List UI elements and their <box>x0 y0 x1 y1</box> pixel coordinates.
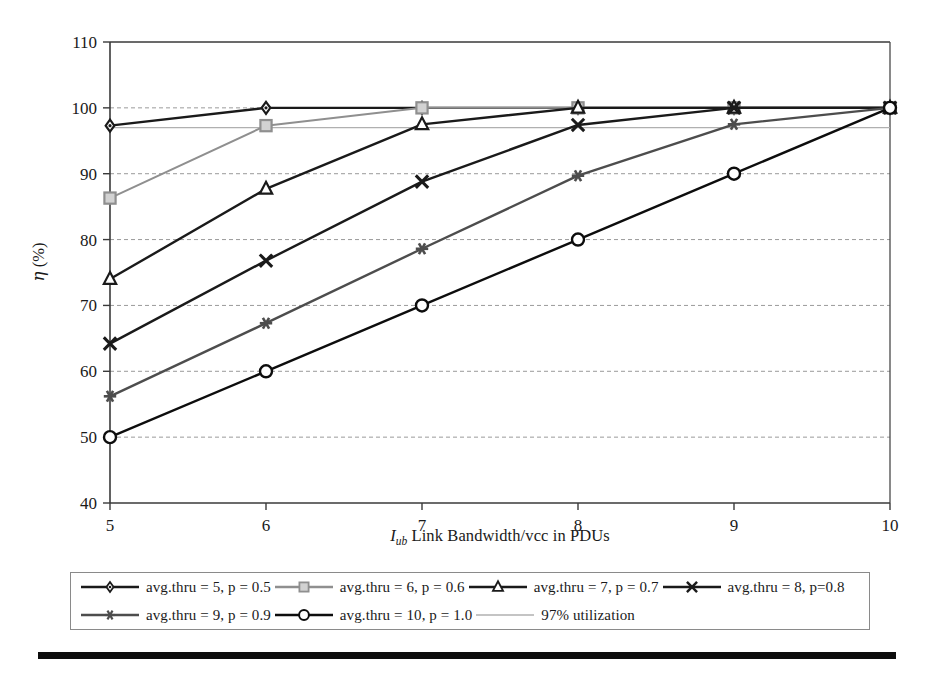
marker-diamond-center <box>108 124 111 127</box>
series-line <box>110 108 890 437</box>
marker-circle <box>416 299 428 311</box>
legend-label: avg.thru = 6, p = 0.6 <box>335 579 467 596</box>
legend-label: avg.thru = 9, p = 0.9 <box>141 607 273 624</box>
marker-circle <box>260 365 272 377</box>
series-3 <box>104 101 896 284</box>
x-axis-title: Iub Link Bandwidth/vcc in PDUs <box>110 526 890 547</box>
chart-plot: 4050607080901001105678910 <box>0 0 934 560</box>
legend-swatch-asterisk-icon <box>79 606 141 624</box>
marker-circle <box>728 168 740 180</box>
legend-swatch-diamond-icon <box>79 578 141 596</box>
legend-row: avg.thru = 5, p = 0.5avg.thru = 6, p = 0… <box>71 573 869 601</box>
y-axis-title-unit: (%) <box>29 243 48 272</box>
y-tick-label: 40 <box>80 494 97 513</box>
marker-circle <box>884 102 896 114</box>
legend-entry[interactable]: avg.thru = 6, p = 0.6 <box>273 578 467 596</box>
legend-swatch-triangle-icon <box>467 578 529 596</box>
legend-entry[interactable]: avg.thru = 8, p=0.8 <box>661 578 847 596</box>
y-axis-title-symbol: η <box>29 271 48 281</box>
legend-label: 97% utilization <box>536 607 637 624</box>
legend-swatch-circle-icon <box>273 606 335 624</box>
chart-legend: avg.thru = 5, p = 0.5avg.thru = 6, p = 0… <box>70 572 870 630</box>
y-axis-title: η (%) <box>29 217 49 307</box>
marker-circle <box>299 610 309 620</box>
y-tick-label: 90 <box>80 165 97 184</box>
legend-label: avg.thru = 5, p = 0.5 <box>141 579 273 596</box>
x-axis-title-rest: Link Bandwidth/vcc in PDUs <box>407 526 610 545</box>
series-line <box>110 108 890 279</box>
marker-diamond-center <box>264 106 267 109</box>
marker-triangle <box>260 182 272 194</box>
marker-square <box>104 192 115 203</box>
x-axis-title-subscript: ub <box>396 535 408 547</box>
series-line <box>110 108 890 396</box>
y-tick-label: 60 <box>80 362 97 381</box>
figure: 4050607080901001105678910 Iub Link Bandw… <box>0 0 934 673</box>
y-tick-label: 110 <box>72 33 97 52</box>
legend-swatch-none-icon <box>474 606 536 624</box>
marker-circle <box>104 431 116 443</box>
legend-swatch-square-icon <box>273 578 335 596</box>
marker-triangle <box>493 581 503 591</box>
bottom-rule <box>38 652 896 659</box>
marker-diamond-center <box>109 586 112 589</box>
marker-square <box>260 120 271 131</box>
series-5 <box>104 102 896 401</box>
legend-swatch-x-icon <box>661 578 723 596</box>
marker-circle <box>572 234 584 246</box>
marker-triangle <box>416 117 428 129</box>
marker-triangle <box>104 272 116 284</box>
y-tick-label: 50 <box>80 428 97 447</box>
legend-entry[interactable]: avg.thru = 9, p = 0.9 <box>79 606 273 624</box>
legend-label: avg.thru = 8, p=0.8 <box>723 579 847 596</box>
marker-square <box>299 582 308 591</box>
legend-entry[interactable]: avg.thru = 7, p = 0.7 <box>467 578 661 596</box>
legend-row: avg.thru = 9, p = 0.9avg.thru = 10, p = … <box>71 601 869 629</box>
y-tick-label: 80 <box>80 231 97 250</box>
y-tick-label: 100 <box>72 99 98 118</box>
legend-label: avg.thru = 7, p = 0.7 <box>529 579 661 596</box>
marker-square <box>416 102 427 113</box>
legend-entry[interactable]: 97% utilization <box>474 606 637 624</box>
y-tick-label: 70 <box>80 296 97 315</box>
legend-entry[interactable]: avg.thru = 5, p = 0.5 <box>79 578 273 596</box>
legend-entry[interactable]: avg.thru = 10, p = 1.0 <box>273 606 474 624</box>
legend-label: avg.thru = 10, p = 1.0 <box>335 607 474 624</box>
series-4 <box>104 102 896 350</box>
